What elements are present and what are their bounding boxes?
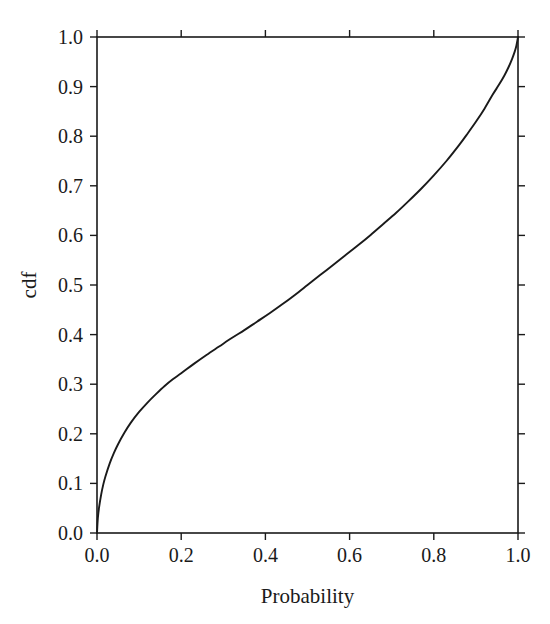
y-tick-label: 1.0	[58, 26, 83, 48]
y-tick-label: 0.6	[58, 224, 83, 246]
y-tick-label: 0.3	[58, 373, 83, 395]
cdf-chart: 0.00.20.40.60.81.0 0.00.10.20.30.40.50.6…	[0, 0, 550, 624]
y-tick-label: 0.5	[58, 274, 83, 296]
x-tick-label: 0.6	[337, 544, 362, 566]
y-tick-label: 0.9	[58, 76, 83, 98]
y-tick-label: 0.2	[58, 423, 83, 445]
x-tick-label: 0.0	[85, 544, 110, 566]
x-tick-label: 0.2	[169, 544, 194, 566]
y-tick-label: 0.0	[58, 522, 83, 544]
figure-container: 0.00.20.40.60.81.0 0.00.10.20.30.40.50.6…	[0, 0, 550, 624]
y-tick-label: 0.7	[58, 175, 83, 197]
x-tick-label: 0.4	[253, 544, 278, 566]
x-tick-label: 0.8	[421, 544, 446, 566]
x-axis-title: Probability	[261, 584, 355, 608]
y-tick-label: 0.4	[58, 324, 83, 346]
y-tick-label: 0.1	[58, 472, 83, 494]
y-axis-title: cdf	[17, 272, 41, 299]
x-tick-label: 1.0	[506, 544, 531, 566]
y-tick-label: 0.8	[58, 125, 83, 147]
